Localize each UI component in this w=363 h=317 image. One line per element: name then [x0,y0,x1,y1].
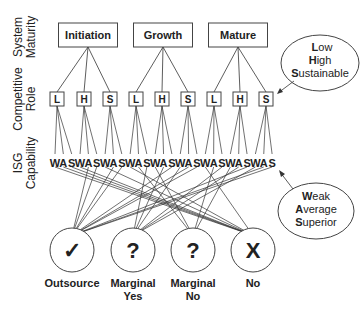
row-label-role-2: Role [24,86,38,111]
role-node: H [155,92,169,106]
outcome-symbol: ? [126,238,139,263]
svg-text:Weak: Weak [302,190,331,202]
capability-outcome-link [80,167,244,232]
capability-letter: A [84,157,92,169]
role-legend-initial-2: S [291,67,298,79]
role-capability-link [80,106,84,154]
role-label: L [54,94,60,105]
outcome-label-line1: Marginal [170,277,215,289]
maturity-role-link [136,47,163,92]
outcome-label-line1: Outsource [44,277,99,289]
capability-outcome-link [78,167,197,232]
maturity-role-link [162,47,163,92]
capability-legend: Weak Average Superior [278,170,354,239]
role-legend-rest-1: igh [317,54,332,66]
role-node: L [207,92,221,106]
role-capability-link [188,106,197,154]
row-label-capability-1: ISG [11,153,25,174]
role-label: H [158,94,165,105]
maturity-node-initiation: Initiation [59,23,118,47]
outcome-node-2: ?MarginalNo [170,228,215,302]
capability-letter: A [59,157,67,169]
maturity-role-link [57,47,88,92]
capability-letter: A [260,157,268,169]
maturity-role-link [84,47,88,92]
svg-text:Low: Low [312,41,333,53]
capability-outcome-link [135,167,164,232]
role-capability-link [155,106,162,154]
capability-letter: A [235,157,243,169]
role-capability-link [205,106,214,154]
outcome-node-1: ?MarginalYes [110,228,155,302]
capability-outcome-link [81,167,247,232]
outcome-label-line2: Yes [124,290,143,302]
capability-outcome-link [73,167,97,232]
role-label: S [107,94,114,105]
outcome-symbol: ✓ [63,238,81,263]
capability-letter: A [185,157,193,169]
role-capability-link [130,106,136,154]
role-capability-link [180,106,188,154]
maturity-node-mature: Mature [209,23,268,47]
role-capability-link [57,106,72,154]
role-label: S [185,94,192,105]
role-capability-link [55,106,57,154]
svg-text:Sustainable: Sustainable [291,67,349,79]
cap-legend-initial-2: S [295,216,302,228]
role-label: H [236,94,243,105]
capability-letter: A [135,157,143,169]
svg-text:Average: Average [295,203,337,215]
outcome-node-0: ✓Outsource [44,228,99,289]
capability-letter: A [210,157,218,169]
cap-legend-initial-0: W [302,190,313,202]
role-capability-link [57,106,63,154]
role-capability-link [136,106,139,154]
cap-legend-arrowhead [279,170,285,177]
role-capability-link [188,106,189,154]
capability-outcome-link [134,167,147,232]
row-label-maturity-2: Maturity [24,16,38,59]
connector-lines [55,47,272,232]
maturity-role-link [238,47,266,92]
role-legend-arrowhead [277,88,283,94]
role-capability-link [214,106,222,154]
role-label: L [133,94,139,105]
role-node: S [103,92,117,106]
role-label: H [80,94,87,105]
row-label-role-1: Competitive [11,67,25,131]
maturity-role-link [214,47,238,92]
capability-outcome-link [105,167,246,232]
outcome-label-line1: Marginal [110,277,155,289]
role-node: H [233,92,247,106]
cap-legend-rest-0: eak [312,190,330,202]
capability-outcome-link [73,167,89,232]
role-node: L [50,92,64,106]
svg-text:High: High [309,54,332,66]
maturity-node-growth: Growth [134,23,193,47]
maturity-role-link [163,47,188,92]
role-capability-link [266,106,272,154]
capability-letter: A [160,157,168,169]
maturity-role-link [88,47,110,92]
cap-legend-rest-2: uperior [303,216,338,228]
outcome-label-line2: No [186,290,201,302]
role-capability-link [136,106,147,154]
role-node: H [77,92,91,106]
capability-letter: S [268,157,275,169]
maturity-role-link [238,47,240,92]
outcome-symbol: ? [186,238,199,263]
role-legend-rest-0: ow [318,41,332,53]
maturity-label: Growth [144,29,183,41]
cap-legend-rest-1: verage [303,203,337,215]
role-label: L [211,94,217,105]
cap-legend-initial-1: A [295,203,303,215]
decision-tree-diagram: System Maturity Competitive Role ISG Cap… [0,0,363,317]
role-legend: Low High Sustainable [277,35,359,94]
row-label-maturity-1: System [11,17,25,57]
role-legend-initial-1: H [309,54,317,66]
role-capability-link [105,106,110,154]
role-capability-link [240,106,247,154]
role-node: S [259,92,273,106]
outcome-node-3: XNo [231,228,275,289]
row-label-capability-2: Capability [24,137,38,190]
